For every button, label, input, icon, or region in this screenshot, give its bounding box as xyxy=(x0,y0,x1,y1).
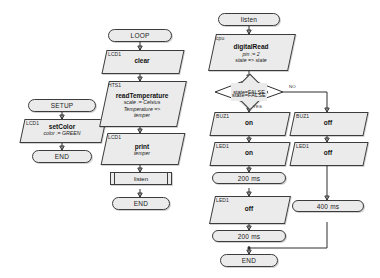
delay-yes-200ms-first[interactable]: 200 ms xyxy=(212,172,286,184)
subroutine-listen-label: listen xyxy=(134,176,148,182)
block-tag: HTS1 xyxy=(108,82,121,88)
block-tag: LED1 xyxy=(296,143,309,149)
block-tag: BUZ1 xyxy=(216,113,229,119)
terminator-listen-end[interactable]: END xyxy=(220,254,278,267)
block-tag: cpu xyxy=(216,35,224,41)
delay-yes-200ms-second[interactable]: 200 ms xyxy=(212,230,286,242)
edge-label-no: NO xyxy=(289,84,296,89)
block-loop-clear[interactable]: LCD1 clear xyxy=(104,50,180,72)
edge-label-yes: YES xyxy=(253,104,262,109)
block-yes-buz-on[interactable]: BUZ1 on xyxy=(212,112,286,134)
terminator-loop[interactable]: LOOP xyxy=(108,29,172,42)
block-tag: LED1 xyxy=(216,197,229,203)
block-loop-readtemperature[interactable]: HTS1 readTemperature scale := Celsius Te… xyxy=(104,81,180,125)
flowchart-canvas: SETUP LCD1 setColor color := GREEN END L… xyxy=(0,0,380,278)
subroutine-listen-call[interactable]: listen xyxy=(110,172,172,185)
block-no-buz-off[interactable]: BUZ1 off xyxy=(292,112,364,134)
terminator-listen[interactable]: listen xyxy=(218,13,280,26)
block-tag: LCD1 xyxy=(108,51,121,57)
block-listen-digitalread[interactable]: cpu digitalRead pin := 2 state => state xyxy=(212,34,290,69)
terminator-setup-end[interactable]: END xyxy=(32,150,92,163)
block-tag: BUZ1 xyxy=(296,113,309,119)
terminator-setup-end-label: END xyxy=(55,153,69,160)
block-tag: LCD1 xyxy=(108,134,121,140)
block-tag: LED1 xyxy=(216,143,229,149)
block-no-led-off[interactable]: LED1 off xyxy=(292,142,364,164)
terminator-setup[interactable]: SETUP xyxy=(28,99,96,112)
terminator-loop-label: LOOP xyxy=(131,32,150,39)
delay-no-400ms[interactable]: 400 ms xyxy=(292,200,364,212)
terminator-loop-end-label: END xyxy=(134,200,148,207)
block-yes-led-on[interactable]: LED1 on xyxy=(212,142,286,164)
decision-condition-text: state=FALSE xyxy=(233,89,265,95)
delay-label: 200 ms xyxy=(238,175,261,182)
block-setup-setcolor[interactable]: LCD1 setColor color := GREEN xyxy=(22,119,102,141)
terminator-listen-label: listen xyxy=(241,16,257,23)
terminator-loop-end[interactable]: END xyxy=(112,197,170,210)
block-loop-print[interactable]: LCD1 print temper xyxy=(104,133,180,163)
block-tag: LCD1 xyxy=(26,120,39,126)
delay-label: 200 ms xyxy=(238,233,261,240)
block-yes-led-off[interactable]: LED1 off xyxy=(212,196,286,222)
delay-label: 400 ms xyxy=(317,203,340,210)
terminator-setup-label: SETUP xyxy=(51,102,74,109)
terminator-listen-end-label: END xyxy=(242,257,256,264)
